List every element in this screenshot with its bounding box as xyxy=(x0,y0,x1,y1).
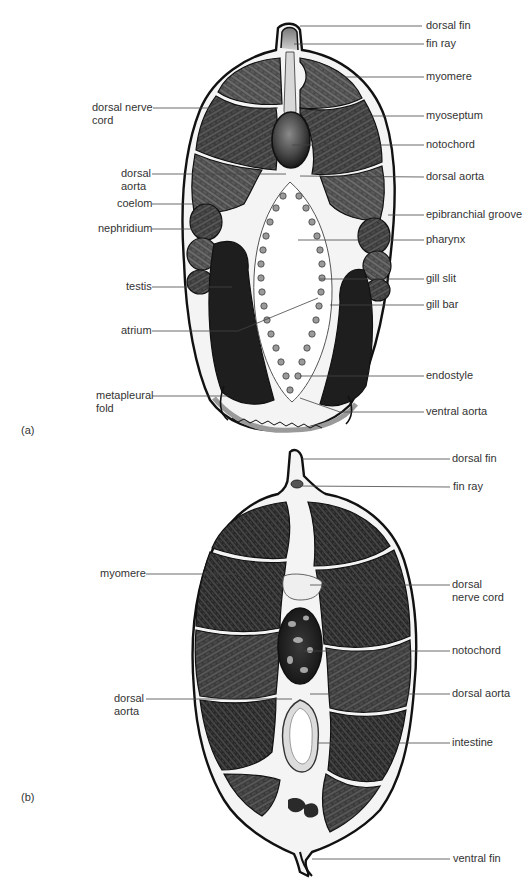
label-dorsal-aorta-a-left-line1: dorsal xyxy=(121,167,151,180)
label-dorsal-aorta-a-right: dorsal aorta xyxy=(426,170,484,183)
label-gill-slit: gill slit xyxy=(426,272,456,285)
label-intestine: intestine xyxy=(452,736,493,749)
label-metapleural-fold-line1: metapleural xyxy=(96,389,153,402)
diagram-artwork xyxy=(0,0,532,887)
label-dorsal-fin-a: dorsal fin xyxy=(426,19,471,32)
label-myoseptum-a: myoseptum xyxy=(426,109,483,122)
label-dorsal-nerve-cord-a-line1: dorsal nerve xyxy=(92,101,153,114)
label-dorsal-nerve-cord-b-line2: nerve cord xyxy=(452,591,504,604)
label-epibranchial-groove: epibranchial groove xyxy=(426,208,522,221)
label-dorsal-aorta-a-left-line2: aorta xyxy=(121,180,146,193)
panel-a-illustration xyxy=(183,24,395,431)
label-dorsal-fin-b: dorsal fin xyxy=(452,452,497,465)
label-dorsal-nerve-cord-a-line2: cord xyxy=(92,114,113,127)
label-myomere-a: myomere xyxy=(426,70,472,83)
label-dorsal-nerve-cord-b-line1: dorsal xyxy=(452,578,482,591)
label-ventral-aorta: ventral aorta xyxy=(426,405,487,418)
label-dorsal-aorta-b-left-line1: dorsal xyxy=(114,692,144,705)
amphioxus-cross-section-figure: dorsal fin fin ray myomere myoseptum not… xyxy=(0,0,532,887)
label-endostyle: endostyle xyxy=(426,369,473,382)
label-metapleural-fold-line2: fold xyxy=(96,402,114,415)
label-dorsal-aorta-b-right: dorsal aorta xyxy=(452,687,510,700)
label-coelom: coelom xyxy=(117,197,152,210)
label-myomere-b: myomere xyxy=(100,567,146,580)
label-gill-bar: gill bar xyxy=(426,298,458,311)
label-fin-ray-b: fin ray xyxy=(453,480,483,493)
label-pharynx: pharynx xyxy=(426,233,465,246)
panel-tag-b: (b) xyxy=(21,791,34,803)
label-atrium: atrium xyxy=(121,324,152,337)
panel-b-illustration xyxy=(193,450,417,876)
label-ventral-fin: ventral fin xyxy=(453,852,501,865)
label-notochord-a: notochord xyxy=(426,138,475,151)
label-notochord-b: notochord xyxy=(452,644,501,657)
label-nephridium: nephridium xyxy=(98,222,152,235)
label-fin-ray-a: fin ray xyxy=(426,37,456,50)
label-testis: testis xyxy=(126,280,152,293)
panel-tag-a: (a) xyxy=(21,424,34,436)
label-dorsal-aorta-b-left-line2: aorta xyxy=(114,705,139,718)
